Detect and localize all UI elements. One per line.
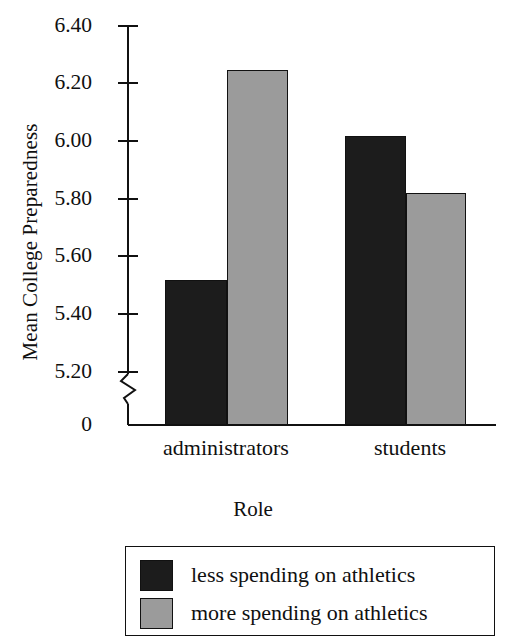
x-tick-label-administrators: administrators (126, 435, 326, 461)
bar-administrators-less-spending (165, 280, 227, 425)
bar-administrators-more-spending (227, 70, 288, 425)
legend-item-less-spending: less spending on athletics (126, 556, 494, 594)
bar-chart-figure: Mean College Preparedness 6.40 6.20 6.00… (0, 0, 506, 636)
bar-students-more-spending (406, 193, 466, 425)
legend-label-more-spending: more spending on athletics (191, 600, 427, 626)
x-tick-label-students: students (320, 435, 500, 461)
dark-swatch-icon (140, 560, 173, 591)
legend-label-less-spending: less spending on athletics (191, 562, 415, 588)
chart-legend: less spending on athletics more spending… (125, 546, 495, 636)
light-swatch-icon (140, 598, 173, 629)
x-axis-title: Role (0, 497, 506, 522)
legend-item-more-spending: more spending on athletics (126, 594, 494, 632)
bar-students-less-spending (345, 136, 406, 425)
